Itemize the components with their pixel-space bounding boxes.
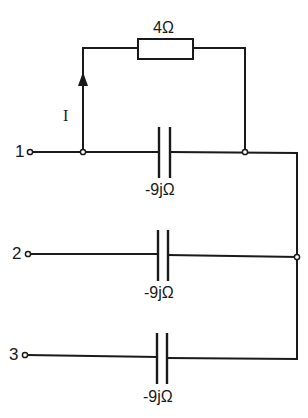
terminal-3-label: 3 <box>9 347 18 363</box>
circuit-diagram <box>0 0 308 418</box>
resistor-label: 4Ω <box>153 20 174 36</box>
terminal-1-node <box>27 149 32 154</box>
current-arrow-icon <box>78 72 88 86</box>
terminal-2-node <box>25 251 30 256</box>
capacitor-1-label: -9jΩ <box>145 182 175 198</box>
resistor-branch-right-wire <box>193 48 245 152</box>
resistor-branch-left-wire <box>83 48 138 152</box>
terminal-2-label: 2 <box>12 246 21 262</box>
junction-node-right <box>242 149 247 154</box>
junction-node-left <box>80 149 85 154</box>
branch-3-left-wire <box>27 355 157 357</box>
terminal-3-node <box>22 352 27 357</box>
branch-3-right-wire <box>167 358 297 359</box>
current-label: I <box>63 108 68 124</box>
terminal-1-label: 1 <box>15 144 24 160</box>
capacitor-2-label: -9jΩ <box>144 285 174 301</box>
junction-node-rail <box>294 254 299 259</box>
resistor-symbol <box>138 39 193 59</box>
branch-2-right-wire <box>168 255 297 257</box>
capacitor-3-label: -9jΩ <box>143 389 173 405</box>
